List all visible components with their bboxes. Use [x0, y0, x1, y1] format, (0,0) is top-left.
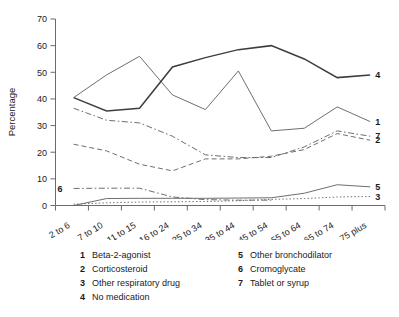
- legend-item: 6 Cromoglycate: [238, 262, 332, 276]
- x-tick-label: 16 to 24: [137, 220, 170, 240]
- legend-label: Other respiratory drug: [89, 276, 180, 290]
- y-tick-label: 40: [37, 94, 47, 104]
- x-tick-label: 45 to 54: [236, 220, 269, 240]
- y-axis-ticks: 010203040506070: [37, 14, 56, 211]
- x-tick-label: 65 to 74: [302, 220, 335, 240]
- x-tick-label: 2 to 6: [47, 220, 71, 240]
- legend-number: 4: [80, 290, 89, 304]
- series-line-2: [74, 134, 371, 171]
- y-axis-title: Percentage: [6, 88, 17, 137]
- legend-column-left: 1 Beta-2-agonist 2 Corticosteroid 3 Othe…: [80, 248, 180, 304]
- y-tick-label: 20: [37, 148, 47, 158]
- legend-item: 2 Corticosteroid: [80, 262, 180, 276]
- legend-label: No medication: [89, 290, 150, 304]
- y-tick-label: 70: [37, 14, 47, 24]
- series-inline-label-6: 6: [58, 184, 63, 194]
- y-tick-label: 10: [37, 174, 47, 184]
- x-tick-label: 55 to 64: [269, 220, 302, 240]
- legend-label: Tablet or syrup: [247, 276, 309, 290]
- legend-number: 5: [238, 248, 247, 262]
- series-line-1: [74, 56, 371, 131]
- legend-item: 5 Other bronchodilator: [238, 248, 332, 262]
- series-end-label-7: 7: [375, 131, 380, 141]
- series-line-4: [74, 46, 371, 111]
- legend-label: Other bronchodilator: [247, 248, 332, 262]
- legend-label: Corticosteroid: [89, 262, 148, 276]
- legend-item: 4 No medication: [80, 290, 180, 304]
- x-tick-label: 75 plus: [338, 220, 368, 240]
- series-line-3: [74, 196, 371, 204]
- legend-number: 7: [238, 276, 247, 290]
- x-tick-label: 11 to 15: [105, 220, 137, 240]
- series-end-label-4: 4: [375, 70, 380, 80]
- line-chart: Percentage 010203040506070 2 to 67 to 10…: [0, 0, 399, 240]
- y-tick-label: 30: [37, 121, 47, 131]
- series-line-7: [74, 108, 371, 157]
- legend-item: 1 Beta-2-agonist: [80, 248, 180, 262]
- x-tick-label: 35 to 44: [203, 220, 236, 240]
- y-tick-label: 0: [42, 201, 47, 211]
- legend-number: 2: [80, 262, 89, 276]
- legend: 1 Beta-2-agonist 2 Corticosteroid 3 Othe…: [0, 248, 399, 314]
- legend-number: 1: [80, 248, 89, 262]
- series-end-label-1: 1: [375, 117, 380, 127]
- axis-lines: [56, 19, 386, 206]
- legend-item: 7 Tablet or syrup: [238, 276, 332, 290]
- legend-item: 3 Other respiratory drug: [80, 276, 180, 290]
- legend-column-right: 5 Other bronchodilator 6 Cromoglycate 7 …: [238, 248, 332, 290]
- legend-number: 6: [238, 262, 247, 276]
- x-axis-ticks: [56, 206, 386, 211]
- legend-label: Cromoglycate: [247, 262, 306, 276]
- chart-figure: Percentage 010203040506070 2 to 67 to 10…: [0, 0, 399, 317]
- y-tick-label: 50: [37, 68, 47, 78]
- series-end-label-3: 3: [375, 192, 380, 202]
- legend-number: 3: [80, 276, 89, 290]
- series-end-label-5: 5: [375, 182, 380, 192]
- series-lines: [74, 46, 371, 206]
- y-tick-label: 60: [37, 41, 47, 51]
- x-axis-tick-labels: 2 to 67 to 1011 to 1516 to 2425 to 3435 …: [47, 220, 368, 240]
- legend-label: Beta-2-agonist: [89, 248, 151, 262]
- x-tick-label: 7 to 10: [76, 220, 105, 240]
- x-tick-label: 25 to 34: [170, 220, 203, 240]
